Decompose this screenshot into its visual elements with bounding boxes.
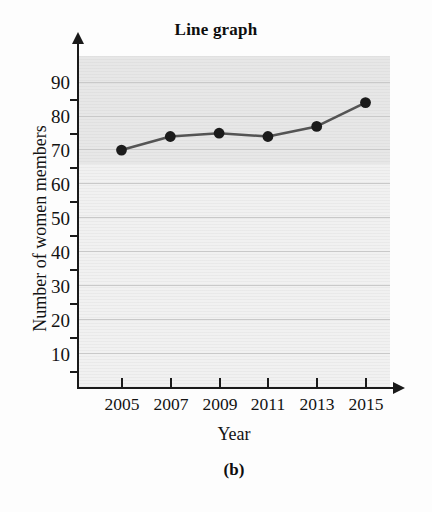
y-tick-mark: [70, 235, 79, 237]
gridline-40: [78, 251, 390, 252]
plot-upper-shading: [78, 56, 390, 164]
y-tick-mark: [70, 167, 79, 169]
y-tick-mark: [70, 371, 79, 373]
y-tick-mark: [70, 99, 79, 101]
x-tick-label-2015: 2015: [336, 394, 396, 414]
x-axis-line: [78, 387, 395, 389]
gridline-10: [78, 353, 390, 354]
figure-caption: (b): [78, 460, 390, 480]
x-tick-mark: [121, 378, 123, 388]
y-tick-mark: [70, 133, 79, 135]
y-tick-mark: [70, 201, 79, 203]
gridline-70: [78, 149, 390, 150]
x-axis-title: Year: [78, 424, 390, 445]
gridline-80: [78, 116, 390, 117]
x-tick-mark: [219, 378, 221, 388]
y-tick-mark: [70, 303, 79, 305]
y-axis-title: Number of women members: [30, 99, 51, 359]
y-axis-arrowhead: [72, 32, 84, 44]
gridline-50: [78, 217, 390, 218]
gridline-30: [78, 285, 390, 286]
x-tick-mark: [365, 378, 367, 388]
y-tick-mark: [70, 337, 79, 339]
y-tick-label-90: 90: [30, 73, 70, 92]
y-tick-mark: [70, 269, 79, 271]
gridline-20: [78, 319, 390, 320]
x-tick-mark: [316, 378, 318, 388]
plot-area: [78, 56, 390, 388]
x-tick-mark: [267, 378, 269, 388]
gridline-60: [78, 183, 390, 184]
x-axis-arrowhead: [393, 382, 405, 394]
line-chart-figure: Line graph 90 80 70 60 50 40 30 20 10: [0, 0, 432, 512]
gridline-90: [78, 82, 390, 83]
x-tick-mark: [170, 378, 172, 388]
